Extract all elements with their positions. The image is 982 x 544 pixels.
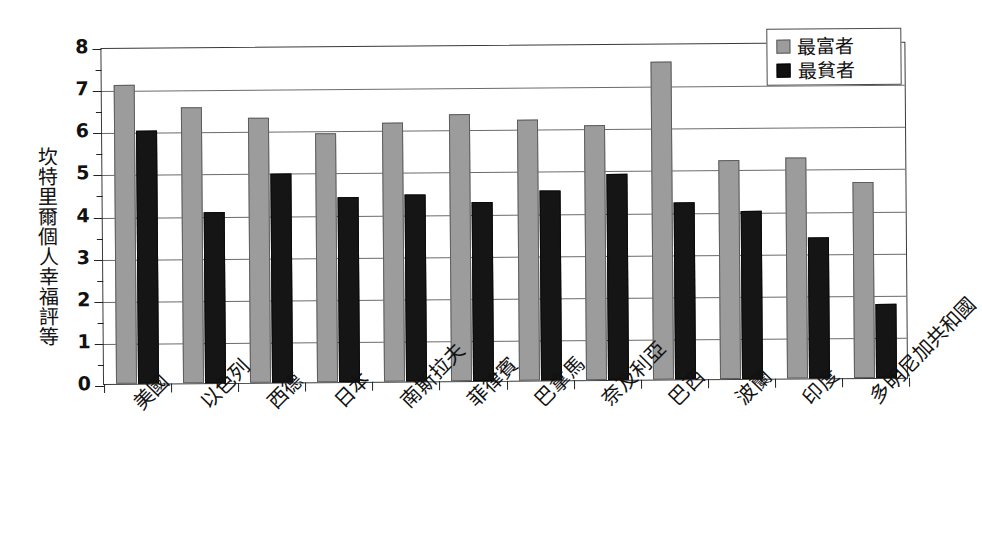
bar-group	[303, 47, 373, 383]
legend-entry-poorest: 最貧者	[776, 58, 900, 83]
legend-entry-richest: 最富者	[776, 34, 900, 59]
x-axis-tick	[104, 384, 105, 393]
bar-poorest	[204, 212, 226, 383]
bar-richest	[584, 125, 607, 380]
y-axis-tick-label: 5	[63, 161, 89, 183]
y-axis-tick	[95, 386, 104, 387]
bar-richest	[785, 157, 808, 378]
bar-richest	[248, 117, 271, 383]
y-axis-tick	[95, 344, 104, 345]
bar-poorest	[472, 202, 494, 381]
bar-poorest	[673, 202, 695, 379]
y-axis-tick	[94, 217, 103, 218]
y-axis-tick-label: 0	[65, 372, 91, 394]
bar-group	[370, 46, 440, 382]
y-axis-tick-label: 1	[65, 330, 91, 352]
y-axis-tick	[94, 260, 103, 261]
bar-richest	[516, 119, 539, 380]
bar-group	[638, 44, 708, 380]
bar-poorest	[271, 174, 294, 383]
bar-group	[168, 48, 238, 384]
y-axis-tick-label: 4	[64, 204, 90, 226]
bar-richest	[650, 61, 673, 379]
y-axis-tick-labels: 012345678	[58, 48, 91, 385]
bar-group	[705, 44, 775, 380]
bar-poorest	[740, 210, 762, 379]
plot-frame	[100, 42, 908, 385]
bar-poorest	[136, 131, 159, 384]
y-axis-tick	[94, 302, 103, 303]
y-axis-tick-label: 2	[64, 288, 90, 310]
bar-poorest	[405, 194, 427, 382]
chart-legend: 最富者 最貧者	[766, 28, 901, 86]
bar-richest	[852, 182, 875, 378]
figure-caption: －－－－－－－－－－	[505, 536, 885, 544]
y-axis-tick	[93, 175, 102, 176]
y-axis-tick	[93, 91, 102, 92]
bar-poorest	[606, 173, 629, 380]
bar-richest	[718, 160, 741, 379]
y-axis-tick-label: 6	[63, 119, 89, 141]
bar-group	[101, 48, 171, 384]
bar-poorest	[539, 191, 561, 381]
bar-poorest	[338, 197, 360, 383]
legend-label-poorest: 最貧者	[798, 61, 855, 80]
y-axis-tick	[93, 133, 102, 134]
bar-richest	[114, 85, 137, 384]
bar-group	[236, 47, 306, 383]
legend-label-richest: 最富者	[797, 37, 854, 56]
gray-swatch-icon	[776, 40, 790, 54]
bar-group	[504, 45, 574, 381]
bar-richest	[382, 123, 405, 382]
y-axis-tick-label: 7	[63, 77, 89, 99]
y-axis-tick-label: 8	[62, 35, 88, 57]
bar-group	[437, 46, 507, 382]
black-swatch-icon	[777, 64, 791, 78]
plot-area-wrapper: 坎特里爾個人幸福評等 012345678 美國以色列西德日本南斯拉夫菲律賓巴拿馬…	[0, 0, 951, 544]
bar-group	[839, 43, 909, 379]
bar-group	[772, 43, 842, 379]
x-axis-category-labels: 美國以色列西德日本南斯拉夫菲律賓巴拿馬奈及利亞巴西波蘭印度多明尼加共和國	[0, 0, 947, 1]
bar-poorest	[808, 237, 830, 378]
y-axis-title: 坎特里爾個人幸福評等	[24, 96, 60, 396]
bar-richest	[181, 107, 204, 383]
y-axis-tick-label: 3	[64, 246, 90, 268]
y-axis-tick	[92, 49, 101, 50]
bar-group	[571, 45, 641, 381]
bar-richest	[315, 134, 338, 383]
